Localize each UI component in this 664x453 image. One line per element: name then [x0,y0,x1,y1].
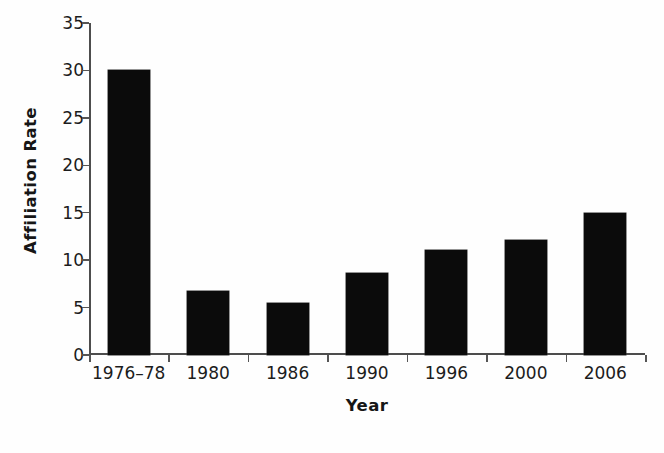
x-axis-tick-label: 2006 [584,363,627,383]
x-axis-tick [486,355,488,362]
y-axis-tick [82,212,89,214]
x-axis-tick-labels: 1976–78198019861990199620002006 [89,363,645,389]
bar [425,250,467,355]
x-axis-tick-label: 1976–78 [92,363,165,383]
y-axis-tick [82,354,89,356]
y-axis-tick-label: 15 [62,204,84,221]
x-axis-tick [327,355,329,362]
y-axis-tick [82,22,89,24]
y-axis-tick-label: 25 [62,109,84,126]
x-axis-tick-label: 1990 [345,363,388,383]
x-axis-tick-label: 1996 [425,363,468,383]
x-axis-tick [89,355,91,362]
bar [187,291,229,356]
y-axis-tick [82,70,89,72]
y-axis-tick-label: 20 [62,157,84,174]
bar-series [89,23,645,355]
x-axis-tick-label: 1986 [266,363,309,383]
y-axis-tick [82,165,89,167]
x-axis-tick-label: 1980 [187,363,230,383]
y-axis-tick [82,259,89,261]
y-axis-tick-labels: 05101520253035 [44,0,84,453]
bar [346,273,388,355]
x-axis-tick [248,355,250,362]
x-axis-tick [645,355,647,362]
y-axis-tick-label: 10 [62,252,84,269]
plot-area [89,23,645,355]
x-axis-tick-label: 2000 [504,363,547,383]
x-axis-title: Year [89,396,645,415]
y-axis-tick [82,117,89,119]
bar-chart: Affiliation Rate 05101520253035 1976–781… [0,0,664,453]
bar [267,303,309,355]
bar [584,213,626,355]
x-axis-tick [168,355,170,362]
y-axis-title-label: Affiliation Rate [21,107,40,254]
bar [505,240,547,355]
bar [108,70,150,355]
x-axis-tick [407,355,409,362]
y-axis-tick-label: 30 [62,62,84,79]
y-axis-tick [82,307,89,309]
y-axis-tick-label: 35 [62,15,84,32]
x-axis-tick [566,355,568,362]
